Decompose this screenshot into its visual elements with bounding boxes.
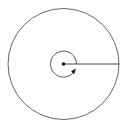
center-point: [62, 62, 66, 66]
circle-diagram: [0, 0, 125, 125]
rotation-arrowhead-icon: [71, 69, 76, 75]
